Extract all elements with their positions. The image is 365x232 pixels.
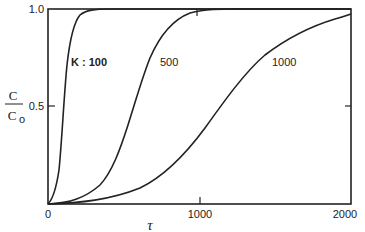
- plot-frame: [48, 9, 351, 204]
- curve-k1000: [48, 14, 351, 204]
- y-tick-label-0.5: 0.5: [29, 100, 44, 112]
- x-tick-label-0: 0: [45, 208, 51, 220]
- y-tick-label-1.0: 1.0: [29, 3, 44, 15]
- x-tick-label-2000: 2000: [333, 208, 357, 220]
- chart-canvas: 1.0 0.5 0 1000 2000 C C o τ K : 100 500 …: [0, 0, 365, 232]
- y-axis-label-numerator: C: [9, 88, 18, 103]
- curve-k500: [48, 9, 351, 204]
- x-axis-label: τ: [147, 217, 153, 232]
- x-tick-label-1000: 1000: [188, 208, 212, 220]
- curve-label-k100: K : 100: [71, 56, 107, 68]
- curve-label-k1000: 1000: [272, 56, 296, 68]
- y-axis-label-subscript: o: [19, 113, 25, 125]
- y-axis-label-denominator: C: [8, 108, 17, 123]
- curve-k100: [48, 9, 351, 204]
- curve-label-k500: 500: [160, 56, 178, 68]
